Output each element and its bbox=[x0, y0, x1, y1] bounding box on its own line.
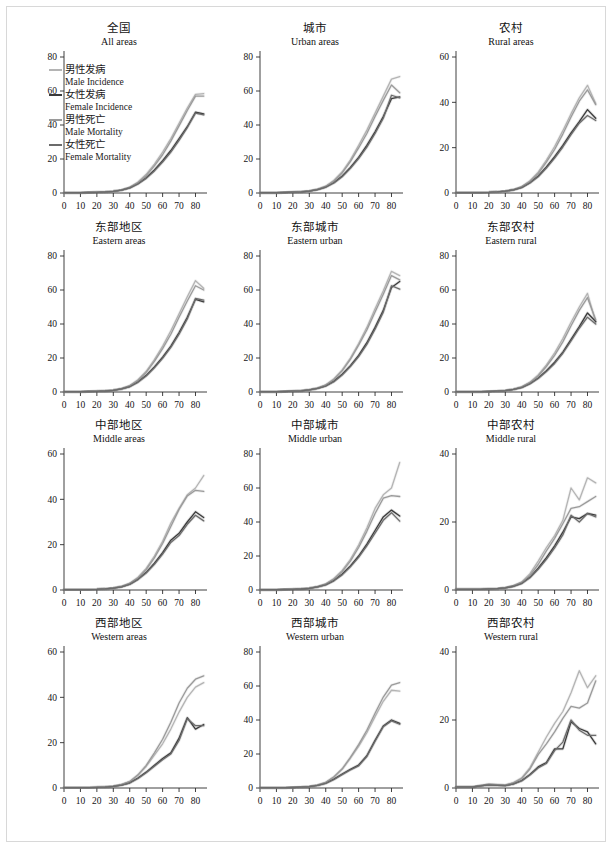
x-tick-label: 0 bbox=[258, 598, 263, 608]
x-tick-label: 40 bbox=[125, 796, 135, 806]
x-tick-label: 60 bbox=[550, 400, 560, 410]
x-tick-label: 30 bbox=[305, 598, 315, 608]
x-tick-label: 0 bbox=[62, 400, 67, 410]
y-tick-label: 0 bbox=[248, 188, 253, 198]
y-tick-label: 20 bbox=[440, 353, 450, 363]
y-tick-label: 20 bbox=[244, 353, 254, 363]
x-tick-label: 60 bbox=[354, 598, 364, 608]
x-tick-label: 40 bbox=[321, 598, 331, 608]
series-halo bbox=[456, 497, 596, 590]
x-tick-label: 40 bbox=[517, 598, 527, 608]
plot-area: 020406001020304050607080 bbox=[19, 412, 215, 617]
series-line-male-incidence bbox=[260, 271, 400, 391]
x-tick-label: 10 bbox=[76, 201, 86, 211]
y-tick-label: 0 bbox=[52, 387, 57, 397]
x-tick-label: 70 bbox=[566, 796, 576, 806]
chart-panel-western-rural: 西部农村Western rural0204001020304050607080 bbox=[411, 610, 611, 819]
plot-area: 02040608001020304050607080 bbox=[411, 214, 607, 419]
x-tick-label: 0 bbox=[454, 400, 459, 410]
series-halo bbox=[456, 85, 596, 192]
x-tick-label: 60 bbox=[158, 796, 168, 806]
x-tick-label: 80 bbox=[191, 201, 201, 211]
x-tick-label: 40 bbox=[321, 400, 331, 410]
x-tick-label: 40 bbox=[125, 598, 135, 608]
plot-area: 02040608001020304050607080 bbox=[215, 15, 411, 220]
x-tick-label: 10 bbox=[468, 598, 478, 608]
x-tick-label: 0 bbox=[62, 796, 67, 806]
x-tick-label: 40 bbox=[321, 201, 331, 211]
chart-panel-eastern-urban: 东部城市Eastern urban02040608001020304050607… bbox=[215, 214, 415, 423]
x-tick-label: 30 bbox=[501, 796, 511, 806]
x-tick-label: 30 bbox=[305, 201, 315, 211]
y-tick-label: 40 bbox=[244, 715, 254, 725]
series-halo bbox=[260, 276, 400, 392]
x-tick-label: 0 bbox=[454, 796, 459, 806]
legend-label-cn: 男性死亡 bbox=[65, 113, 105, 126]
series-halo bbox=[64, 512, 204, 590]
series-halo bbox=[456, 313, 596, 392]
legend-item: 女性死亡 bbox=[49, 138, 169, 151]
x-tick-label: 60 bbox=[158, 598, 168, 608]
y-tick-label: 0 bbox=[52, 585, 57, 595]
x-tick-label: 50 bbox=[141, 201, 151, 211]
chart-panel-eastern-rural: 东部农村Eastern rural02040608001020304050607… bbox=[411, 214, 611, 423]
x-tick-label: 30 bbox=[109, 598, 119, 608]
series-line-female-mortality bbox=[260, 721, 400, 788]
series-halo bbox=[260, 85, 400, 193]
x-tick-label: 40 bbox=[125, 201, 135, 211]
x-tick-label: 20 bbox=[92, 201, 102, 211]
chart-panel-middle-urban: 中部城市Middle urban020406080010203040506070… bbox=[215, 412, 415, 621]
chart-panel-urban-areas: 城市Urban areas02040608001020304050607080 bbox=[215, 15, 415, 224]
x-tick-label: 70 bbox=[370, 598, 380, 608]
y-tick-label: 60 bbox=[48, 449, 58, 459]
legend-line-swatch-icon bbox=[49, 69, 62, 71]
legend-line-swatch-icon bbox=[49, 119, 62, 121]
x-tick-label: 0 bbox=[62, 201, 67, 211]
x-tick-label: 20 bbox=[484, 598, 494, 608]
x-tick-label: 80 bbox=[387, 201, 397, 211]
x-tick-label: 80 bbox=[583, 796, 593, 806]
x-tick-label: 70 bbox=[174, 400, 184, 410]
plot-area: 02040608001020304050607080 bbox=[215, 214, 411, 419]
series-halo bbox=[456, 110, 596, 193]
y-tick-label: 80 bbox=[440, 251, 450, 261]
x-tick-label: 10 bbox=[76, 598, 86, 608]
x-tick-label: 50 bbox=[141, 598, 151, 608]
legend-label-en: Male Mortality bbox=[65, 126, 169, 138]
x-tick-label: 60 bbox=[354, 201, 364, 211]
x-tick-label: 0 bbox=[258, 201, 263, 211]
series-line-male-incidence bbox=[260, 77, 400, 193]
x-tick-label: 50 bbox=[141, 400, 151, 410]
x-tick-label: 40 bbox=[321, 796, 331, 806]
x-tick-label: 10 bbox=[468, 796, 478, 806]
y-tick-label: 80 bbox=[48, 251, 58, 261]
x-tick-label: 80 bbox=[583, 201, 593, 211]
legend-label-cn: 女性发病 bbox=[65, 88, 105, 101]
legend-line-swatch-icon bbox=[49, 94, 62, 96]
x-tick-label: 80 bbox=[583, 598, 593, 608]
x-tick-label: 70 bbox=[566, 598, 576, 608]
plot-area: 020406001020304050607080 bbox=[19, 610, 215, 815]
x-tick-label: 0 bbox=[454, 598, 459, 608]
series-halo bbox=[456, 293, 596, 391]
series-halo bbox=[260, 721, 400, 788]
y-tick-label: 20 bbox=[48, 540, 58, 550]
x-tick-label: 30 bbox=[109, 796, 119, 806]
series-halo bbox=[260, 271, 400, 391]
series-line-female-mortality bbox=[456, 317, 596, 391]
x-tick-label: 60 bbox=[550, 201, 560, 211]
x-tick-label: 10 bbox=[272, 598, 282, 608]
series-line-male-mortality bbox=[64, 286, 204, 392]
x-tick-label: 30 bbox=[109, 201, 119, 211]
x-tick-label: 60 bbox=[158, 201, 168, 211]
y-tick-label: 0 bbox=[52, 783, 57, 793]
x-tick-label: 0 bbox=[62, 598, 67, 608]
x-tick-label: 50 bbox=[533, 796, 543, 806]
y-tick-label: 80 bbox=[48, 52, 58, 62]
x-tick-label: 40 bbox=[517, 400, 527, 410]
chart-legend: 男性发病Male Incidence女性发病Female Incidence男性… bbox=[49, 63, 169, 163]
y-tick-label: 60 bbox=[244, 86, 254, 96]
y-tick-label: 40 bbox=[244, 120, 254, 130]
chart-panel-all-areas: 全国All areas02040608001020304050607080男性发… bbox=[19, 15, 219, 224]
series-halo bbox=[456, 298, 596, 392]
